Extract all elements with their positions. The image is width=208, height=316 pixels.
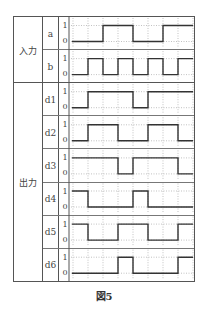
waveform-d1	[72, 92, 193, 108]
waveform-d2	[72, 125, 193, 141]
waveform-a	[72, 26, 193, 42]
waveform-d5	[72, 224, 193, 240]
waveform-d4	[72, 191, 193, 207]
figure-caption: 図5	[0, 288, 208, 303]
waveform-d6	[72, 257, 193, 273]
waveform-d3	[72, 158, 193, 174]
timing-waveforms	[0, 0, 208, 316]
waveform-b	[72, 59, 193, 75]
